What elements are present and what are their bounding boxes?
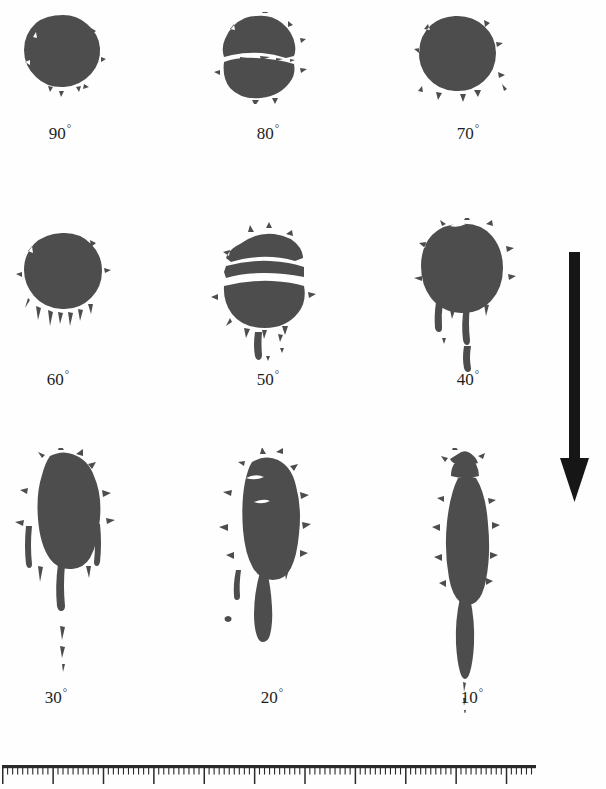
stain-shape-50 (200, 222, 330, 362)
arrow-down-icon (556, 252, 596, 508)
stain-cell-10: 10° (400, 448, 530, 738)
figure-canvas: g p 90° 80° (0, 0, 606, 789)
angle-label-20: 20° (242, 688, 302, 708)
angle-label-80: 80° (238, 124, 298, 144)
degree-symbol: ° (275, 122, 279, 134)
blood-stain-30 (2, 448, 132, 678)
stain-cell-70: 70° (398, 12, 528, 142)
degree-symbol: ° (475, 122, 479, 134)
degree-symbol: ° (479, 686, 483, 698)
degree-symbol: ° (279, 686, 283, 698)
degree-symbol: ° (275, 368, 279, 380)
degree-symbol: ° (475, 368, 479, 380)
stain-cell-80: 80° (200, 12, 330, 142)
angle-label-10: 10° (442, 688, 502, 708)
blood-stain-40 (398, 218, 528, 378)
angle-label-60: 60° (28, 370, 88, 390)
stain-shape-20 (202, 448, 332, 678)
stain-cell-50: 50° (200, 222, 330, 402)
stain-cell-20: 20° (202, 448, 332, 738)
angle-label-90: 90° (30, 124, 90, 144)
ruler-ticks (2, 764, 536, 788)
stain-shape-90 (8, 12, 128, 102)
angle-label-30: 30° (26, 688, 86, 708)
stain-shape-30 (2, 448, 132, 678)
stain-cell-30: 30° (2, 448, 132, 738)
blood-stain-20 (202, 448, 332, 678)
degree-symbol: ° (63, 686, 67, 698)
downward-direction-arrow (556, 252, 596, 508)
blood-stain-80 (200, 12, 330, 104)
stain-cell-40: 40° (398, 218, 528, 403)
stain-shape-70 (398, 12, 528, 106)
stain-shape-10 (400, 448, 530, 713)
stain-shape-60 (6, 230, 126, 340)
angle-label-50: 50° (238, 370, 298, 390)
stain-cell-90: 90° (8, 12, 128, 142)
blood-stain-90 (8, 12, 128, 102)
blood-stain-60 (6, 230, 126, 340)
stain-cell-60: 60° (6, 230, 126, 400)
angle-label-70: 70° (438, 124, 498, 144)
stain-shape-40 (398, 218, 528, 378)
stain-shape-80 (200, 12, 330, 104)
blood-stain-50 (200, 222, 330, 362)
scale-bar-ruler (2, 764, 536, 788)
degree-symbol: ° (65, 368, 69, 380)
blood-stain-10 (400, 448, 530, 713)
blood-stain-70 (398, 12, 528, 106)
degree-symbol: ° (67, 122, 71, 134)
angle-label-40: 40° (438, 370, 498, 390)
